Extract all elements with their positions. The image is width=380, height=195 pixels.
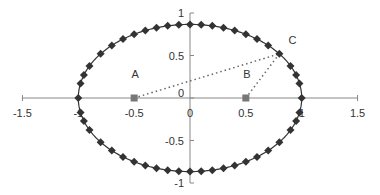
y-tick-label: -1 (174, 177, 184, 189)
y-tick-label: -0.5 (165, 135, 184, 147)
diamond-marker-icon (186, 168, 194, 176)
diamond-marker-icon (80, 71, 88, 79)
y-tick-label: 0.5 (169, 50, 184, 62)
diamond-marker-icon (231, 27, 239, 35)
diamond-marker-icon (197, 167, 205, 175)
diamond-marker-icon (242, 30, 250, 38)
diamond-marker-icon (130, 30, 138, 38)
square-marker-icon (131, 95, 138, 102)
point-label-C: C (288, 34, 296, 46)
y-tick-label: 0 (178, 87, 184, 99)
diamond-marker-icon (164, 166, 172, 174)
point-labels: ABC (131, 34, 296, 80)
diamond-marker-icon (152, 24, 160, 32)
diamond-marker-icon (253, 153, 261, 161)
axes (22, 13, 357, 183)
diamond-marker-icon (108, 41, 116, 49)
diamond-marker-icon (298, 94, 306, 102)
diamond-marker-icon (175, 167, 183, 175)
diamond-marker-icon (208, 166, 216, 174)
x-tick-label: -1.5 (13, 107, 32, 119)
diamond-marker-icon (242, 158, 250, 166)
diamond-marker-icon (220, 24, 228, 32)
x-tick-label: 0 (187, 107, 193, 119)
diamond-marker-icon (175, 21, 183, 29)
diamond-marker-icon (208, 22, 216, 30)
diamond-marker-icon (264, 147, 272, 155)
diamond-marker-icon (164, 22, 172, 30)
diamond-marker-icon (141, 161, 149, 169)
diamond-marker-icon (130, 158, 138, 166)
diamond-marker-icon (108, 147, 116, 155)
diamond-marker-icon (292, 71, 300, 79)
diamond-marker-icon (152, 164, 160, 172)
diamond-marker-icon (197, 21, 205, 29)
point-label-A: A (131, 68, 139, 80)
diamond-marker-icon (231, 161, 239, 169)
x-tick-label: 0.5 (238, 107, 253, 119)
diamond-marker-icon (119, 35, 127, 43)
point-label-B: B (243, 68, 250, 80)
square-marker-icon (242, 95, 249, 102)
diamond-marker-icon (264, 41, 272, 49)
x-tick-label: 1.5 (350, 107, 365, 119)
diamond-marker-icon (220, 164, 228, 172)
diamond-marker-icon (74, 94, 82, 102)
dotted-line-B-C (246, 54, 280, 98)
dotted-line-A-C (134, 54, 279, 98)
x-tick-label: -0.5 (125, 107, 144, 119)
diamond-marker-icon (253, 35, 261, 43)
diamond-marker-icon (295, 79, 303, 87)
y-tick-label: 1 (178, 7, 184, 19)
diamond-marker-icon (141, 27, 149, 35)
ellipse-chart: -1.5-1-0.500.511.5-1-0.50.510 ABC (0, 0, 380, 195)
focal-distance-lines (134, 54, 279, 98)
diamond-marker-icon (186, 20, 194, 28)
diamond-marker-icon (119, 153, 127, 161)
diamond-marker-icon (77, 79, 85, 87)
